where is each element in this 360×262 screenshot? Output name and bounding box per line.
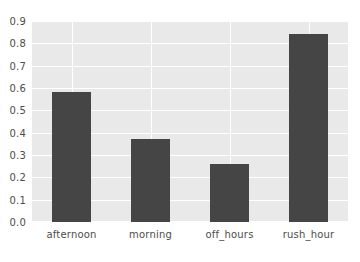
y-tick-label: 0.3 [9, 150, 26, 161]
y-tick-label: 0.8 [9, 38, 26, 49]
y-tick-label: 0.9 [9, 16, 26, 27]
bar-off_hours [210, 164, 250, 222]
x-tick-label-off_hours: off_hours [205, 229, 253, 240]
plot-area [32, 21, 348, 222]
bar-chart-figure: 0.00.10.20.30.40.50.60.70.80.9 afternoon… [0, 0, 360, 262]
x-axis-tick-labels: afternoonmorningoff_hoursrush_hour [32, 229, 348, 249]
bar-morning [131, 139, 171, 222]
x-tick-label-morning: morning [129, 229, 172, 240]
x-tick-label-afternoon: afternoon [46, 229, 96, 240]
y-tick-label: 0.5 [9, 105, 26, 116]
gridline-horizontal [32, 21, 348, 22]
y-axis-tick-labels: 0.00.10.20.30.40.50.60.70.80.9 [0, 0, 32, 262]
y-tick-label: 0.4 [9, 127, 26, 138]
y-tick-label: 0.6 [9, 83, 26, 94]
y-tick-label: 0.0 [9, 217, 26, 228]
bar-rush_hour [289, 34, 329, 222]
y-tick-label: 0.1 [9, 194, 26, 205]
y-tick-label: 0.7 [9, 60, 26, 71]
x-tick-label-rush_hour: rush_hour [283, 229, 335, 240]
bar-afternoon [52, 92, 92, 222]
y-tick-label: 0.2 [9, 172, 26, 183]
